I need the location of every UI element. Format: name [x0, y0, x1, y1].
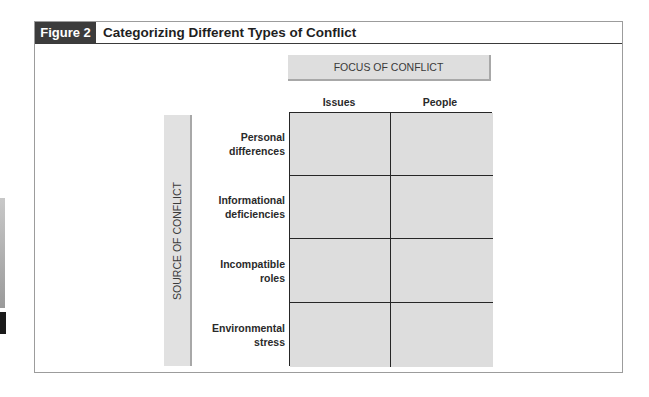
row-label-line: stress: [196, 335, 285, 349]
figure-header: Figure 2 Categorizing Different Types of…: [35, 22, 622, 44]
row-label-line: roles: [196, 271, 285, 285]
row-label-incompatible-roles: Incompatible roles: [196, 257, 285, 285]
page-edge-mark: [0, 312, 6, 334]
column-header-issues: Issues: [289, 96, 389, 108]
cell-personal-people: [391, 113, 493, 176]
cell-informational-people: [391, 176, 493, 239]
cell-informational-issues: [290, 176, 391, 239]
cell-incompatible-issues: [290, 239, 391, 303]
source-of-conflict-axis: SOURCE OF CONFLICT: [164, 115, 192, 366]
cell-environmental-people: [391, 303, 493, 367]
cell-environmental-issues: [290, 303, 391, 367]
cell-incompatible-people: [391, 239, 493, 303]
figure-number-label: Figure 2: [35, 22, 96, 43]
row-label-line: deficiencies: [196, 207, 285, 221]
cell-personal-issues: [290, 113, 391, 176]
row-label-line: Informational: [196, 193, 285, 207]
row-label-personal-differences: Personal differences: [196, 130, 285, 158]
row-label-line: Incompatible: [196, 257, 285, 271]
figure-title: Categorizing Different Types of Conflict: [103, 22, 356, 43]
source-of-conflict-axis-label: SOURCE OF CONFLICT: [171, 182, 183, 300]
column-header-people: People: [390, 96, 490, 108]
row-label-informational-deficiencies: Informational deficiencies: [196, 193, 285, 221]
conflict-matrix: [289, 112, 492, 366]
row-label-line: differences: [196, 144, 285, 158]
row-label-environmental-stress: Environmental stress: [196, 321, 285, 349]
row-label-line: Personal: [196, 130, 285, 144]
focus-of-conflict-axis-label: FOCUS OF CONFLICT: [288, 55, 491, 81]
page-edge-shadow: [0, 198, 5, 308]
row-label-line: Environmental: [196, 321, 285, 335]
